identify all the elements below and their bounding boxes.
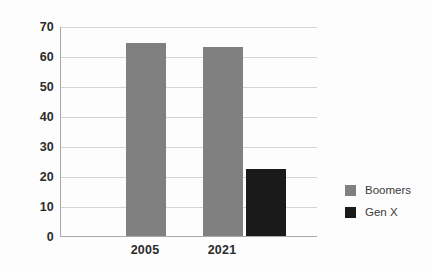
legend: BoomersGen X — [345, 182, 411, 226]
y-axis-tick-label: 0 — [8, 230, 54, 244]
gridline — [61, 27, 317, 28]
y-axis-tick-label: 20 — [8, 170, 54, 184]
y-axis-tick-label: 50 — [8, 80, 54, 94]
bar-gen-x-2021 — [246, 169, 286, 237]
y-axis-tick-label: 40 — [8, 110, 54, 124]
y-axis-tick-label: 10 — [8, 200, 54, 214]
y-axis-tick-label: 70 — [8, 20, 54, 34]
gridline — [61, 147, 317, 148]
x-axis-tick-label: 2021 — [182, 243, 262, 257]
legend-label: Boomers — [365, 184, 411, 196]
legend-item[interactable]: Boomers — [345, 182, 411, 198]
bar-boomers-2005 — [126, 43, 166, 237]
bar-boomers-2021 — [203, 47, 243, 236]
legend-label: Gen X — [365, 206, 398, 218]
plot-area — [60, 27, 317, 237]
x-axis-tick-label: 2005 — [105, 243, 185, 257]
y-axis-tick-label: 30 — [8, 140, 54, 154]
gridline — [61, 117, 317, 118]
y-axis: 010203040506070 — [0, 27, 54, 237]
gridline — [61, 57, 317, 58]
gridline — [61, 87, 317, 88]
y-axis-tick-label: 60 — [8, 50, 54, 64]
bar-chart: 010203040506070 20052021 BoomersGen X — [0, 0, 431, 273]
legend-swatch-icon — [345, 207, 356, 218]
legend-swatch-icon — [345, 185, 356, 196]
legend-item[interactable]: Gen X — [345, 204, 411, 220]
